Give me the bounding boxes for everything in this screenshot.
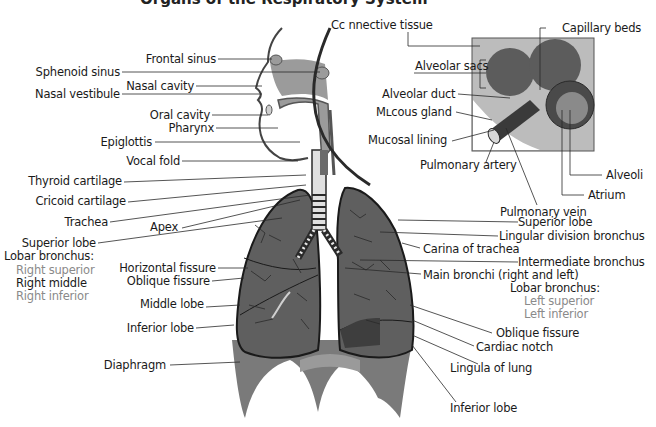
label-alveolar-sacs: Alveolar sacs bbox=[415, 60, 488, 73]
diagram-title: Organs of the Respiratory System bbox=[140, 0, 428, 8]
right-lung-shape bbox=[237, 190, 320, 358]
label-inferior-lobe-right: Inferior lobe bbox=[127, 322, 194, 335]
label-carina-of-trachea: Carina of trachea bbox=[423, 243, 519, 256]
label-pharynx: Pharynx bbox=[169, 122, 215, 135]
label-connective-tissue: Cc nnective tissue bbox=[331, 19, 433, 32]
label-mucosal-lining: Mucosal lining bbox=[368, 134, 447, 147]
label-lingula-of-lung: Lingula of lung bbox=[450, 362, 532, 375]
label-apex: Apex bbox=[150, 221, 178, 234]
label-oblique-fissure-left: Oblique fissure bbox=[496, 327, 579, 340]
label-oblique-fissure-right: Oblique fissure bbox=[127, 275, 210, 288]
label-superior-lobe-left: Superior lobe bbox=[518, 216, 592, 229]
label-vocal-fold: Vocal fold bbox=[126, 155, 180, 168]
label-right-inferior: Right inferior bbox=[16, 290, 88, 303]
label-capillary-beds: Capillary beds bbox=[562, 22, 641, 35]
label-cardiac-notch: Cardiac notch bbox=[476, 341, 553, 354]
label-mucous-gland: Mʟcous gland bbox=[376, 106, 452, 119]
label-epiglottis: Epiglottis bbox=[101, 136, 153, 149]
label-cricoid-cartilage: Cricoid cartilage bbox=[36, 195, 126, 208]
label-middle-lobe: Middle lobe bbox=[140, 298, 204, 311]
label-diaphragm: Diaphragm bbox=[104, 359, 166, 372]
label-sphenoid-sinus: Sphenoid sinus bbox=[36, 66, 120, 79]
respiratory-diagram: Organs of the Respiratory System Frontal… bbox=[0, 0, 656, 427]
label-lingular-division-bronchus: Lingular division bronchus bbox=[499, 230, 645, 243]
label-frontal-sinus: Frontal sinus bbox=[146, 53, 216, 66]
label-alveolar-duct: Alveolar duct bbox=[382, 88, 455, 101]
label-lobar-bronchus-right: Lobar bronchus: bbox=[4, 250, 94, 263]
label-pulmonary-artery: Pulmonary artery bbox=[420, 159, 517, 172]
label-nasal-cavity: Nasal cavity bbox=[126, 80, 194, 93]
label-left-inferior: Left inferior bbox=[524, 308, 588, 321]
label-nasal-vestibule: Nasal vestibule bbox=[35, 88, 120, 101]
label-atrium: Atrium bbox=[588, 189, 625, 202]
label-inferior-lobe-left: Inferior lobe bbox=[450, 402, 517, 415]
label-thyroid-cartilage: Thyroid cartilage bbox=[28, 175, 122, 188]
alveoli-inset bbox=[472, 38, 594, 151]
label-trachea: Trachea bbox=[65, 216, 108, 229]
label-alveoli: Alveoli bbox=[606, 169, 643, 182]
